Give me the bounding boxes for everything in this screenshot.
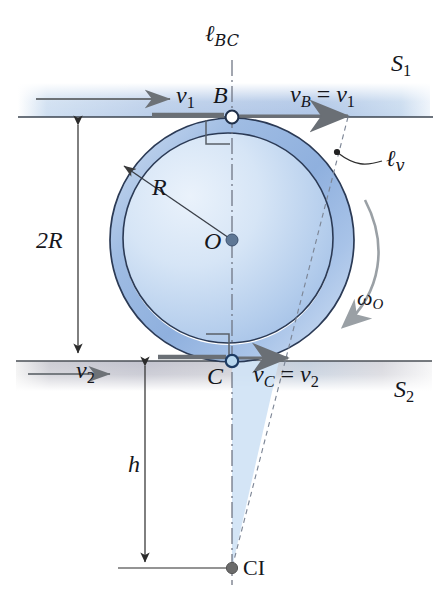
label-line-bc: ℓBC: [205, 22, 239, 49]
label-center-o: O: [204, 229, 221, 253]
label-diameter-2R: 2R: [36, 228, 63, 252]
label-v2: v2: [76, 358, 95, 386]
point-b-marker: [226, 111, 239, 124]
label-line-v: ℓv: [386, 147, 405, 174]
velocity-triangle-shading: [232, 361, 279, 568]
label-vB-equation: vB = v1: [290, 82, 355, 110]
label-omega: ωO: [357, 287, 383, 312]
point-c-marker: [226, 355, 238, 367]
point-o-marker: [226, 234, 238, 246]
label-height-h: h: [128, 452, 140, 476]
label-point-b: B: [213, 83, 228, 107]
label-vC-equation: vC = v2: [253, 362, 319, 390]
label-point-c: C: [207, 364, 223, 388]
line-v-leader: [334, 149, 382, 164]
label-radius: R: [152, 175, 167, 199]
label-surface-top: S1: [391, 51, 411, 79]
label-v1: v1: [176, 83, 195, 111]
physics-diagram-figure: ℓBC S1 v1 B vB = v1 ℓv R O 2R ωO v2 C vC…: [0, 0, 447, 604]
point-ci-marker: [226, 562, 237, 573]
label-ci: CI: [243, 557, 265, 579]
label-surface-bottom: S2: [394, 377, 414, 405]
